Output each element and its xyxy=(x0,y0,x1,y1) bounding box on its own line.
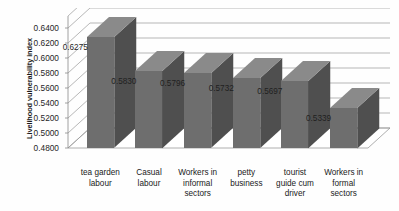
bar-value-label: 0.5339 xyxy=(306,115,331,123)
bar xyxy=(135,71,162,148)
bar-3d-faces xyxy=(184,53,235,150)
x-axis-category-label: Workers informalsectors xyxy=(315,168,372,200)
bar-value-label: 0.6275 xyxy=(63,44,88,52)
bar-value-label: 0.5830 xyxy=(111,78,136,86)
bar xyxy=(87,37,114,148)
bar-3d-faces xyxy=(135,51,186,150)
x-axis-category-label-line: formal xyxy=(315,179,372,190)
bar xyxy=(233,78,260,148)
bar-3d-faces xyxy=(233,58,284,150)
x-axis-category-labels: tea gardenlabourCasuallabourWorkers inin… xyxy=(62,168,394,211)
bar-value-label: 0.5732 xyxy=(209,85,234,93)
y-axis-tick-label: 0.5000 xyxy=(34,129,59,137)
bar-value-label: 0.5697 xyxy=(257,88,282,96)
bar-3d-faces xyxy=(330,88,381,150)
y-axis-tick-label: 0.6000 xyxy=(34,54,59,62)
x-axis-category-label-line: sectors xyxy=(315,189,372,200)
y-axis-tick-label: 0.6400 xyxy=(34,24,59,32)
y-axis-tick-label: 0.5600 xyxy=(34,84,59,92)
bar-chart: Livelihood vulnerability index 0.64000.6… xyxy=(0,0,399,211)
y-axis-tick-label: 0.5200 xyxy=(34,114,59,122)
plot-area: 0.62750.58300.57960.57320.56970.5339 xyxy=(62,8,394,168)
y-axis-tick-label: 0.5800 xyxy=(34,69,59,77)
y-axis-tick-label: 0.6200 xyxy=(34,39,59,47)
y-axis-tick-label: 0.4800 xyxy=(34,144,59,152)
y-axis-tick-label: 0.5400 xyxy=(34,99,59,107)
y-axis-tick-labels: 0.64000.62000.60000.58000.56000.54000.52… xyxy=(14,0,59,211)
bar xyxy=(281,81,308,148)
bar-value-label: 0.5796 xyxy=(160,80,185,88)
x-axis-category-label-line: sectors xyxy=(169,189,226,200)
bar xyxy=(330,108,357,148)
bar xyxy=(184,73,211,148)
bar-3d-faces xyxy=(281,61,332,150)
x-axis-category-label-line: Workers in xyxy=(315,168,372,179)
